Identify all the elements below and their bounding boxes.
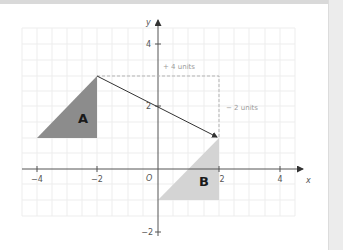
shape-label-b: B — [199, 174, 209, 189]
x-tick-label: 2 — [219, 175, 224, 184]
origin-label: O — [146, 174, 152, 183]
x-tick-label: −2 — [91, 175, 103, 184]
y-tick-label: 4 — [146, 40, 151, 49]
y-tick-label: −2 — [141, 228, 153, 237]
y-tick-label: 2 — [146, 102, 151, 111]
vertical-shift-label: − 2 units — [226, 104, 258, 112]
x-tick-label: 4 — [277, 175, 282, 184]
x-axis-label: x — [305, 176, 311, 185]
x-tick-label: −4 — [31, 175, 43, 184]
horizontal-shift-label: + 4 units — [163, 63, 195, 71]
y-axis-label: y — [145, 18, 151, 27]
shape-label-a: A — [78, 111, 88, 126]
